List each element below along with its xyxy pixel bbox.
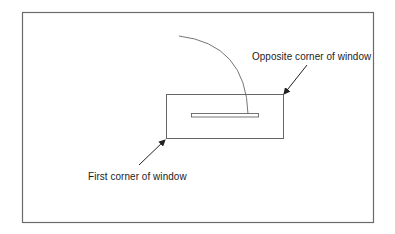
drawing-area-frame — [23, 13, 374, 223]
arrow-first-corner-icon — [139, 140, 165, 165]
arrow-opposite-corner-icon — [284, 65, 307, 94]
zoom-selection-window — [167, 95, 284, 139]
drawing-slot-shape — [192, 114, 259, 118]
diagram-canvas — [0, 0, 395, 234]
first-corner-label: First corner of window — [88, 170, 187, 182]
arc-geometry — [179, 36, 248, 114]
opposite-corner-label: Opposite corner of window — [252, 50, 371, 62]
